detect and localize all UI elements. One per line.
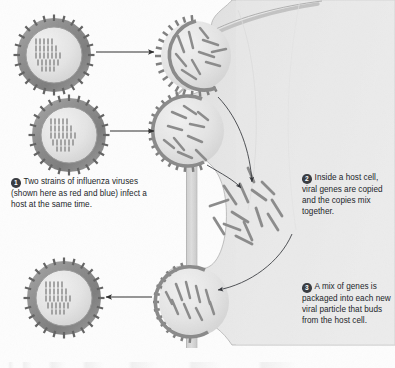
step-badge-1: 1 (11, 178, 21, 188)
step-badge-3: 3 (302, 283, 312, 293)
callout-text-3: A mix of genes is packaged into each new… (302, 282, 391, 325)
influenza-reassortment-figure: 1Two strains of influenza viruses (shown… (0, 0, 395, 368)
virion-interior-b (41, 107, 97, 163)
callout-step-3: 3A mix of genes is packaged into each ne… (302, 281, 392, 327)
callout-step-2: 2Inside a host cell, viral genes are cop… (302, 172, 390, 218)
callout-step-1: 1Two strains of influenza viruses (shown… (11, 176, 163, 210)
step-badge-2: 2 (302, 174, 312, 184)
reassortant-virion (24, 258, 105, 339)
strain-b-virion (29, 95, 110, 176)
caption-bleed-artifact (8, 362, 308, 368)
callout-text-2: Inside a host cell, viral genes are copi… (302, 173, 383, 216)
callout-text-1: Two strains of influenza viruses (shown … (11, 177, 147, 209)
strain-a-virion (14, 15, 95, 96)
virion-interior-c (36, 270, 92, 326)
